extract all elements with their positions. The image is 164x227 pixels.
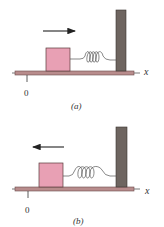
- block: [46, 48, 70, 71]
- origin-label-b: 0: [25, 206, 30, 215]
- wall: [116, 10, 126, 71]
- caption-b: (b): [73, 217, 84, 226]
- block: [39, 163, 63, 187]
- origin-label-a: 0: [24, 89, 29, 98]
- panel-b: [12, 127, 140, 198]
- wall: [116, 127, 127, 187]
- axis-label-x-b: x: [145, 186, 149, 196]
- axis-label-x-a: x: [144, 67, 148, 77]
- floor: [15, 187, 134, 191]
- caption-a: (a): [71, 102, 82, 111]
- panel-a: [12, 10, 140, 82]
- spring: [70, 52, 116, 63]
- mass-spring-diagram: [0, 0, 164, 227]
- spring: [63, 166, 116, 178]
- floor: [15, 71, 134, 75]
